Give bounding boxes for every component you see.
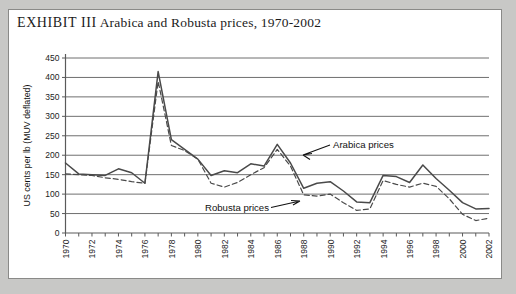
arabica-annotation-label: Arabica prices xyxy=(333,139,394,150)
x-axis-labels: 1970197219741976197819801982198419861988… xyxy=(61,239,495,258)
y-tick-label: 300 xyxy=(45,111,59,121)
y-axis-labels: 050100150200250300350400450 xyxy=(45,53,59,238)
x-tick-label: 1972 xyxy=(87,239,97,258)
y-tick-label: 350 xyxy=(45,92,59,102)
y-tick-label: 200 xyxy=(45,150,59,160)
chart-container: 050100150200250300350400450 197019721974… xyxy=(0,0,516,294)
x-tick-label: 2000 xyxy=(458,239,468,258)
x-tick-label: 1982 xyxy=(220,239,230,258)
x-tick-label: 1978 xyxy=(167,239,177,258)
x-tick-label: 1974 xyxy=(114,239,124,258)
robusta-annotation-arrow xyxy=(271,201,300,208)
y-tick-label: 0 xyxy=(55,228,60,238)
x-tick-label: 1994 xyxy=(379,239,389,258)
y-tick-label: 250 xyxy=(45,131,59,141)
x-tick-label: 1980 xyxy=(193,239,203,258)
y-tick-label: 100 xyxy=(45,189,59,199)
y-tick-label: 450 xyxy=(45,53,59,63)
x-tick-label: 1992 xyxy=(352,239,362,258)
x-tick-label: 1970 xyxy=(61,239,71,258)
price-line-chart: 050100150200250300350400450 197019721974… xyxy=(0,0,516,294)
x-tick-label: 1986 xyxy=(273,239,283,258)
y-tick-label: 400 xyxy=(45,72,59,82)
gridlines xyxy=(66,58,490,214)
arabica-series-line xyxy=(66,72,490,209)
x-tick-label: 1990 xyxy=(326,239,336,258)
robusta-series-line xyxy=(66,81,490,220)
robusta-annotation-label: Robusta prices xyxy=(205,202,269,213)
arabica-annotation-arrow xyxy=(303,145,330,160)
x-tick-label: 2002 xyxy=(484,239,494,258)
x-tick-label: 1998 xyxy=(431,239,441,258)
y-tick-label: 50 xyxy=(50,209,60,219)
y-tick-label: 150 xyxy=(45,170,59,180)
x-tick-label: 1988 xyxy=(299,239,309,258)
y-axis-title: US cents per lb (MUV deflated) xyxy=(22,85,32,207)
x-tick-label: 1984 xyxy=(246,239,256,258)
x-tick-label: 1976 xyxy=(140,239,150,258)
x-tick-label: 1996 xyxy=(405,239,415,258)
